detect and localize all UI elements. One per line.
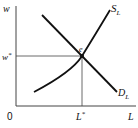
demand-curve-label: DL	[117, 87, 129, 101]
x-axis-label: L	[127, 111, 134, 122]
supply-curve	[34, 10, 110, 92]
equilibrium-point-label: e	[79, 45, 83, 54]
supply-curve-label: SL	[111, 2, 121, 17]
y-axis-label: w	[3, 3, 10, 14]
labor-market-diagram: w w* e SL DL 0 L* L	[0, 0, 138, 128]
origin-label: 0	[7, 111, 13, 122]
quantity-equilibrium-label: L*	[75, 110, 86, 122]
equilibrium-point	[80, 54, 84, 58]
wage-equilibrium-label: w*	[2, 51, 12, 62]
